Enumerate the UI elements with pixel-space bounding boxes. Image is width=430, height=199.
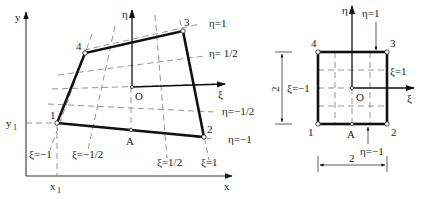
origin-point <box>130 85 133 88</box>
origin-label: O <box>135 90 143 102</box>
eta-1-label: η=1 <box>209 17 226 29</box>
ref-top-edge-label: η=1 <box>362 7 379 19</box>
ref-right-edge-label: ξ=1 <box>390 65 407 78</box>
ref-node-2 <box>385 122 389 126</box>
ref-point-a-label: A <box>347 128 355 140</box>
ref-left-edge-label: ξ=−1 <box>287 82 310 95</box>
point-a <box>129 128 132 131</box>
x-axis-label: x <box>224 180 230 192</box>
finite-element-mapping-diagram: y x y 1 x 1 η ξ O <box>0 0 430 199</box>
ref-node-4-label: 4 <box>311 37 317 49</box>
xi-1-label: ξ=1 <box>201 156 218 169</box>
ref-origin-label: O <box>356 91 364 103</box>
y1-label: y 1 <box>6 117 17 132</box>
ref-node-1-label: 1 <box>308 126 314 138</box>
ref-xi-axis-label: ξ <box>407 92 412 105</box>
xi-neg-half-label: ξ=−1/2 <box>72 148 103 161</box>
node-3 <box>181 29 185 33</box>
ref-node-3 <box>385 50 389 54</box>
y-axis-label: y <box>15 11 21 23</box>
node-1-label: 1 <box>50 109 56 121</box>
node-1 <box>55 121 59 125</box>
point-a-label: A <box>126 135 134 147</box>
height-dimension-label: 2 <box>269 87 281 93</box>
node-2-label: 2 <box>207 123 213 135</box>
ref-eta-axis-label: η <box>342 4 348 16</box>
svg-text:1: 1 <box>13 123 17 132</box>
svg-text:x: x <box>50 180 56 192</box>
eta-1-grid-line <box>84 24 200 50</box>
width-dimension-label: 2 <box>349 152 355 164</box>
x1-label: x 1 <box>50 180 61 195</box>
xi-axis <box>132 84 225 87</box>
ref-node-3-label: 3 <box>390 37 396 49</box>
ref-origin-point <box>350 86 353 89</box>
ref-node-4 <box>316 50 320 54</box>
svg-text:y: y <box>6 117 12 129</box>
eta-axis-label: η <box>122 8 128 20</box>
ref-bottom-edge-label: η=−1 <box>360 145 384 157</box>
svg-text:1: 1 <box>57 186 61 195</box>
ref-node-2-label: 2 <box>391 126 397 138</box>
node-4 <box>83 51 87 55</box>
xi-half-label: ξ=1/2 <box>157 156 182 169</box>
reference-element: η ξ O 1 2 3 4 A η=1 η=−1 ξ=−1 ξ=1 2 2 <box>269 4 414 172</box>
ref-node-1 <box>316 122 320 126</box>
node-2 <box>202 135 206 139</box>
xi-axis-label: ξ <box>218 88 223 101</box>
ref-point-a <box>350 122 353 125</box>
eta-half-label: η= 1/2 <box>209 47 238 59</box>
eta-neg-half-label: η=−1/2 <box>222 105 254 117</box>
eta-neg-half-grid-line <box>48 104 215 112</box>
node-3-label: 3 <box>184 16 190 28</box>
xi-neg1-label: ξ=−1 <box>29 148 52 161</box>
physical-element: y x y 1 x 1 η ξ O <box>6 8 254 195</box>
node-4-label: 4 <box>76 40 82 52</box>
eta-neg1-label: η=−1 <box>228 133 252 145</box>
